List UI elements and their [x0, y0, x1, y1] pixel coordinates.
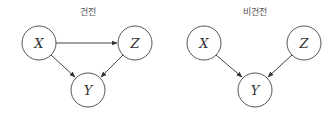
diagram-title: 건전 — [80, 7, 96, 17]
node-label: Y — [251, 83, 261, 98]
node-x: X — [22, 26, 56, 60]
node-y: Y — [238, 73, 272, 107]
edge-x-to-y — [51, 55, 75, 77]
edge-z-to-y — [101, 55, 123, 77]
node-label: Y — [84, 83, 94, 98]
dag-comparison-figure: 건전 X Z Y 비건전 X Z Y — [0, 0, 334, 117]
diagram-sound: 건전 X Z Y — [22, 7, 152, 107]
node-label: Z — [129, 36, 140, 51]
edge-z-to-y — [268, 55, 292, 77]
node-x: X — [187, 26, 221, 60]
node-y: Y — [71, 73, 105, 107]
node-label: X — [33, 36, 44, 51]
diagram-title: 비건전 — [243, 7, 267, 17]
node-label: X — [198, 36, 209, 51]
edge-x-to-y — [216, 55, 242, 77]
node-label: Z — [298, 36, 309, 51]
node-z: Z — [118, 26, 152, 60]
diagram-unsound: 비건전 X Z Y — [187, 7, 321, 107]
node-z: Z — [287, 26, 321, 60]
